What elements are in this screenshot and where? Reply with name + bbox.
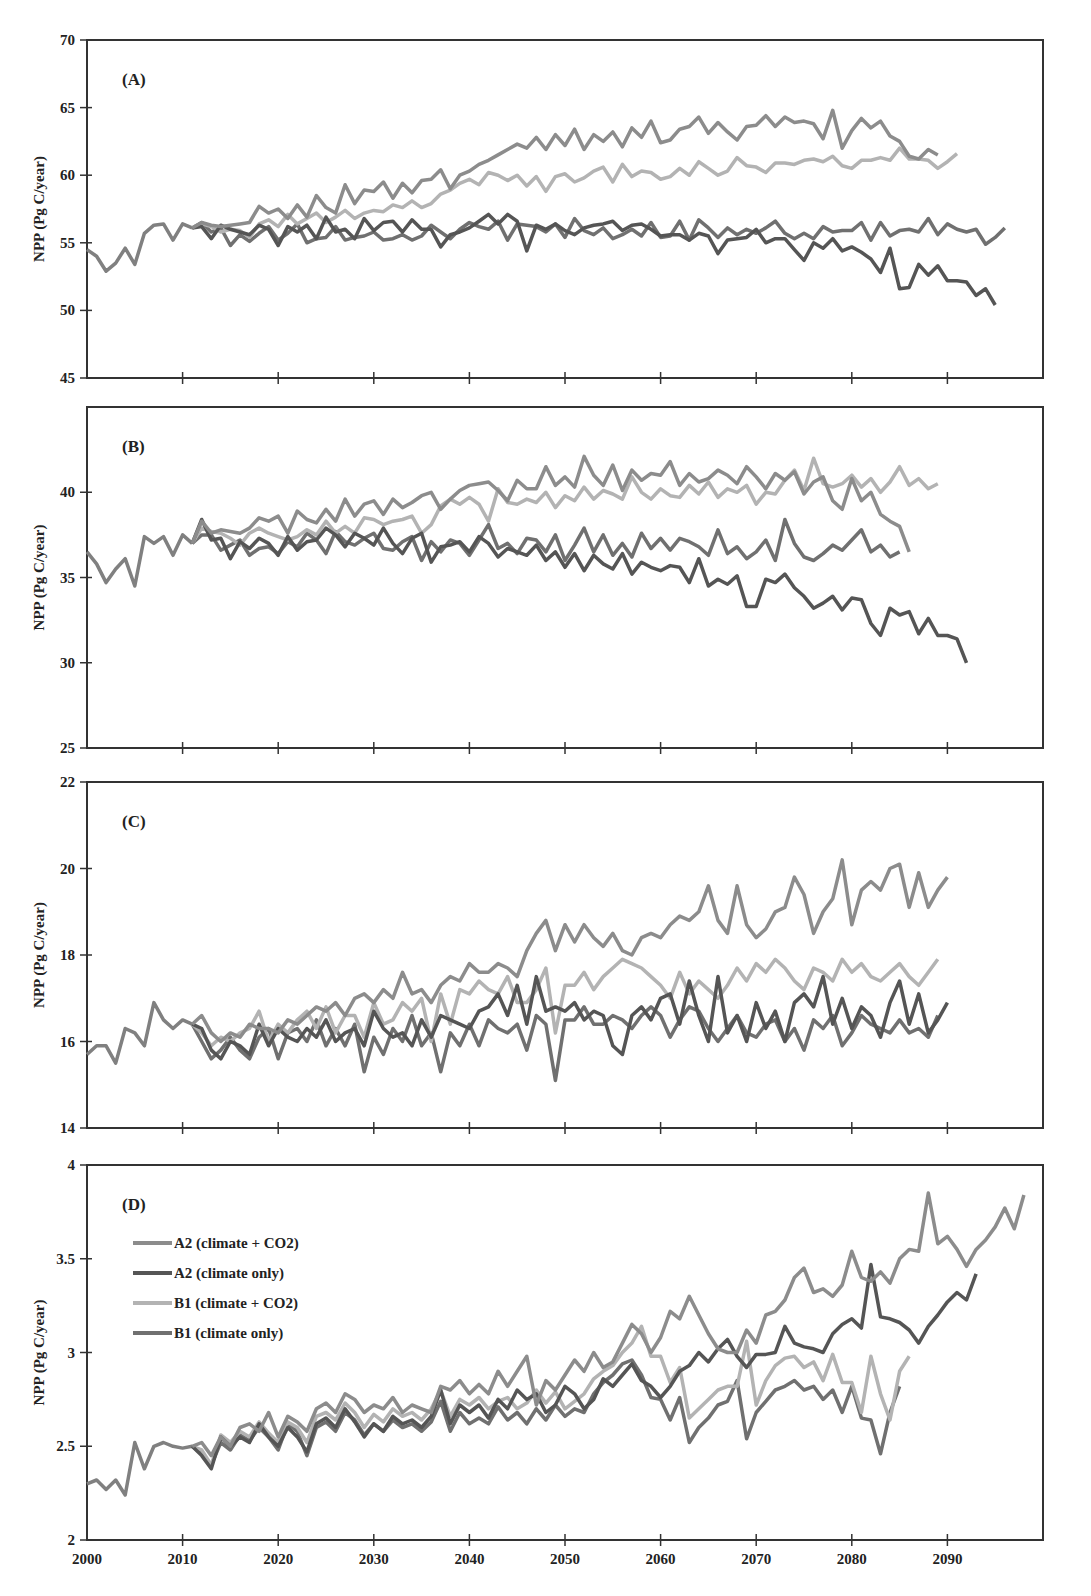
x-tick-label: 2040 (454, 1551, 484, 1567)
y-tick-label: 4 (68, 1157, 76, 1173)
history-line (87, 1003, 192, 1064)
y-tick-label: 2.5 (56, 1438, 75, 1454)
panel-a: 455055606570NPP (Pg C/year)(A) (31, 32, 1043, 386)
y-tick-label: 22 (60, 774, 75, 790)
legend-label: A2 (climate only) (174, 1265, 284, 1282)
plot-frame (87, 407, 1043, 748)
x-tick-label: 2080 (837, 1551, 867, 1567)
y-tick-label: 50 (60, 302, 75, 318)
series-line-a2-climate-co2 (192, 456, 909, 552)
x-tick-label: 2050 (550, 1551, 580, 1567)
y-axis-label: NPP (Pg C/year) (31, 156, 48, 262)
panel-label: (C) (122, 812, 146, 831)
y-axis-label: NPP (Pg C/year) (31, 525, 48, 631)
series-line-a2-climate-only (192, 214, 995, 305)
series-line-a2-climate-co2 (192, 110, 938, 228)
history-line (87, 1443, 192, 1496)
x-tick-label: 2060 (646, 1551, 676, 1567)
history-line (87, 535, 192, 586)
y-tick-label: 60 (60, 167, 75, 183)
panel-c: 1416182022NPP (Pg C/year)(C) (31, 774, 1043, 1136)
y-tick-label: 40 (60, 484, 75, 500)
y-tick-label: 3 (68, 1345, 76, 1361)
history-line (87, 224, 192, 271)
plot-frame (87, 1165, 1043, 1540)
series-line-a2-climate-only (192, 1264, 976, 1468)
y-tick-label: 3.5 (56, 1251, 75, 1267)
y-tick-label: 30 (60, 655, 75, 671)
legend-label: B1 (climate only) (174, 1325, 283, 1342)
y-tick-label: 45 (60, 370, 75, 386)
y-tick-label: 18 (60, 947, 75, 963)
x-tick-label: 2030 (359, 1551, 389, 1567)
plot-frame (87, 40, 1043, 378)
series-line-b1-climate-only (192, 219, 1005, 246)
x-tick-label: 2020 (263, 1551, 293, 1567)
panel-label: (B) (122, 437, 145, 456)
y-tick-label: 35 (60, 570, 75, 586)
y-tick-label: 70 (60, 32, 75, 48)
y-tick-label: 65 (60, 100, 75, 116)
plot-frame (87, 782, 1043, 1128)
legend-label: B1 (climate + CO2) (174, 1295, 298, 1312)
series-line-b1-climate-only (192, 520, 899, 561)
panel-label: (D) (122, 1195, 146, 1214)
y-tick-label: 20 (60, 861, 75, 877)
panel-label: (A) (122, 70, 146, 89)
x-tick-label: 2000 (72, 1551, 102, 1567)
y-tick-label: 14 (60, 1120, 76, 1136)
panel-b: 25303540NPP (Pg C/year)(B) (31, 407, 1043, 756)
panel-d: 22.533.54NPP (Pg C/year)(D) (31, 1157, 1043, 1548)
series-line-b1-climate-co2 (192, 458, 938, 545)
legend: A2 (climate + CO2)A2 (climate only)B1 (c… (133, 1235, 299, 1342)
y-tick-label: 25 (60, 740, 75, 756)
x-tick-label: 2070 (741, 1551, 771, 1567)
y-axis-label: NPP (Pg C/year) (31, 1300, 48, 1406)
npp-figure: 455055606570NPP (Pg C/year)(A)25303540NP… (0, 0, 1091, 1596)
y-tick-label: 16 (60, 1034, 76, 1050)
y-tick-label: 2 (68, 1532, 76, 1548)
y-tick-label: 55 (60, 235, 75, 251)
legend-label: A2 (climate + CO2) (174, 1235, 299, 1252)
x-tick-label: 2090 (932, 1551, 962, 1567)
y-axis-label: NPP (Pg C/year) (31, 902, 48, 1008)
x-tick-label: 2010 (168, 1551, 198, 1567)
